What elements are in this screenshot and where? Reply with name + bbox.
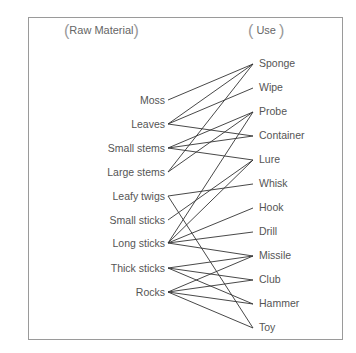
use-label: Hook [259, 201, 284, 213]
connection-line [168, 243, 253, 256]
use-label: Missile [259, 249, 291, 261]
use-label: Sponge [259, 57, 295, 69]
connection-line [168, 160, 253, 220]
use-label: Toy [259, 321, 275, 333]
connection-line [168, 160, 253, 243]
use-label: Wipe [259, 81, 283, 93]
material-label: Large stems [107, 166, 165, 178]
connection-line [168, 64, 253, 172]
material-label: Leaves [131, 118, 165, 130]
connection-line [168, 280, 253, 292]
connection-line [168, 292, 253, 328]
material-label: Moss [140, 94, 165, 106]
connection-line [168, 112, 253, 172]
use-label: Whisk [259, 177, 288, 189]
use-label: Drill [259, 225, 277, 237]
connection-line [168, 64, 253, 100]
use-label: Container [259, 129, 305, 141]
material-label: Leafy twigs [112, 190, 165, 202]
use-label: Probe [259, 105, 287, 117]
use-label: Lure [259, 153, 280, 165]
material-label: Small stems [108, 142, 165, 154]
connection-line [168, 256, 253, 268]
material-label: Rocks [136, 286, 165, 298]
material-label: Small sticks [110, 214, 165, 226]
material-label: Long sticks [112, 237, 165, 249]
connection-lines [0, 0, 356, 353]
connection-line [168, 64, 253, 124]
use-label: Club [259, 273, 281, 285]
use-label: Hammer [259, 297, 299, 309]
connection-line [168, 292, 253, 304]
connection-line [168, 148, 253, 160]
connection-line [168, 112, 253, 243]
material-label: Thick sticks [111, 262, 165, 274]
